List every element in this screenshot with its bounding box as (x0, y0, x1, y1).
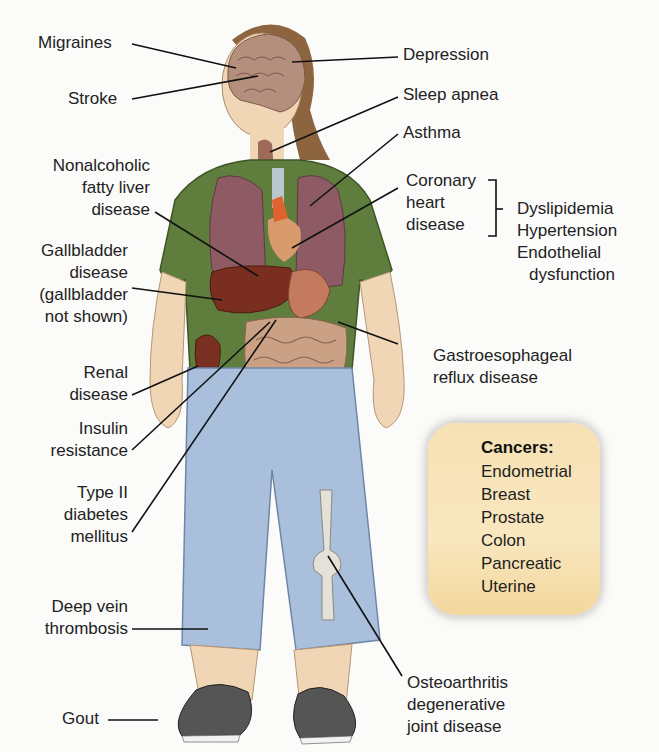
label-asthma: Asthma (403, 122, 461, 144)
left-shoe (178, 684, 251, 736)
label-sleep-apnea: Sleep apnea (403, 84, 498, 106)
label-gerd: Gastroesophageal reflux disease (433, 345, 572, 389)
label-depression: Depression (403, 44, 489, 66)
cancers-title: Cancers: (481, 438, 554, 458)
label-migraines: Migraines (38, 32, 112, 54)
cancer-item: Pancreatic (481, 554, 561, 574)
label-gout: Gout (62, 708, 99, 730)
label-deep-vein-thrombosis: Deep vein thrombosis (18, 596, 128, 640)
shorts (182, 368, 380, 650)
label-stroke: Stroke (68, 88, 117, 110)
obesity-comorbidities-diagram: Migraines Stroke Nonalcoholic fatty live… (0, 0, 659, 752)
cancer-item: Colon (481, 531, 525, 551)
cancer-item: Endometrial (481, 462, 572, 482)
label-type2-diabetes: Type II diabetes mellitus (30, 482, 128, 548)
label-insulin-resistance: Insulin resistance (20, 418, 128, 462)
cancer-item: Uterine (481, 577, 536, 597)
label-gallbladder-disease: Gallbladder disease (gallbladder not sho… (20, 240, 128, 328)
label-coronary-heart-disease: Coronary heart disease (406, 170, 476, 236)
label-nafld: Nonalcoholic fatty liver disease (32, 155, 150, 221)
cancers-box: Cancers: Endometrial Breast Prostate Col… (428, 423, 600, 615)
label-renal-disease: Renal disease (40, 362, 128, 406)
cancer-item: Breast (481, 485, 530, 505)
cancer-item: Prostate (481, 508, 544, 528)
label-osteoarthritis: Osteoarthritis degenerative joint diseas… (407, 672, 508, 738)
label-chd-risk-factors: Dyslipidemia Hypertension Endothelial dy… (517, 198, 617, 286)
